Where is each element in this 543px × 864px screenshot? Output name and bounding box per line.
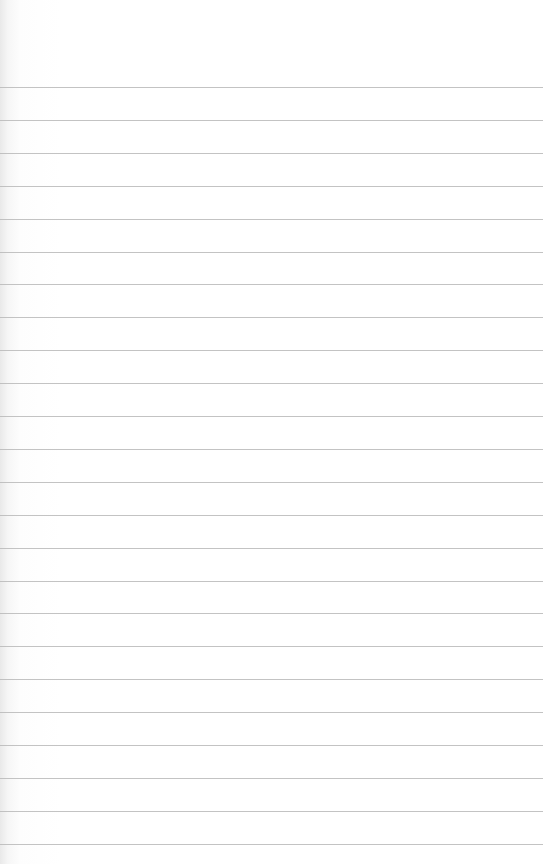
ruled-line [0, 120, 543, 121]
ruled-line [0, 449, 543, 450]
ruled-line [0, 482, 543, 483]
ruled-line [0, 219, 543, 220]
ruled-line [0, 581, 543, 582]
ruled-line [0, 778, 543, 779]
ruled-line [0, 745, 543, 746]
ruled-line [0, 515, 543, 516]
ruled-line [0, 712, 543, 713]
ruled-line [0, 679, 543, 680]
ruled-line [0, 844, 543, 845]
ruled-line [0, 153, 543, 154]
ruled-line [0, 613, 543, 614]
ruled-line [0, 646, 543, 647]
ruled-line [0, 186, 543, 187]
ruled-line [0, 350, 543, 351]
ruled-line [0, 383, 543, 384]
ruled-line [0, 811, 543, 812]
lined-paper-sheet [0, 0, 543, 864]
ruled-line [0, 317, 543, 318]
ruled-line [0, 87, 543, 88]
ruled-line [0, 416, 543, 417]
ruled-line [0, 548, 543, 549]
ruled-line [0, 284, 543, 285]
ruled-line [0, 252, 543, 253]
